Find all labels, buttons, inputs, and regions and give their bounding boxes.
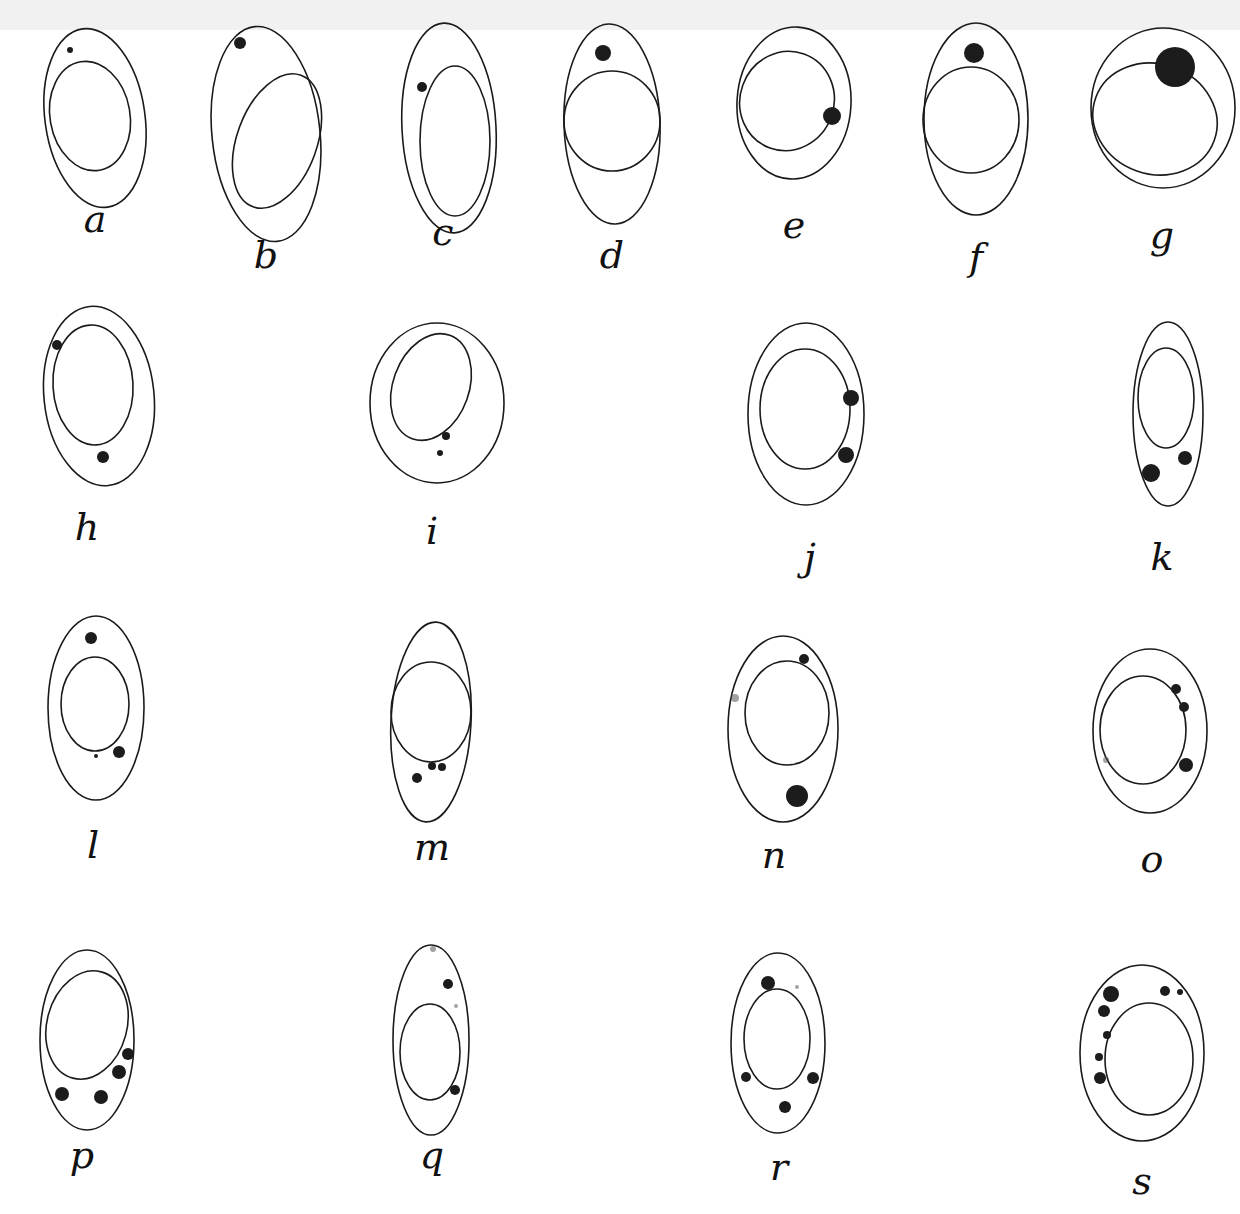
figure-o: o: [1093, 649, 1207, 881]
figure-label: o: [1141, 837, 1164, 881]
cell-membrane: [201, 21, 331, 247]
figure-label: s: [1132, 1159, 1152, 1203]
figure-label: a: [84, 197, 107, 241]
granule: [454, 1004, 458, 1008]
figure-m: m: [386, 620, 476, 869]
granule: [55, 1087, 69, 1101]
nucleus: [41, 55, 139, 177]
nucleus: [564, 71, 660, 171]
granule: [799, 654, 809, 664]
granule: [595, 45, 611, 61]
nucleus: [745, 661, 829, 765]
scan-top-band: [0, 0, 1240, 30]
granule: [761, 976, 775, 990]
cell-membrane: [733, 24, 855, 182]
figure-label: p: [70, 1133, 94, 1177]
figure-h: h: [35, 301, 163, 549]
nucleus: [744, 989, 810, 1089]
nucleus: [391, 662, 471, 762]
nucleus: [420, 66, 490, 216]
figure-label: j: [797, 535, 816, 579]
figure-d: d: [561, 22, 664, 277]
granule: [234, 37, 246, 49]
figure-label: i: [426, 509, 438, 553]
figures-group: abcdefghijklmnopqrs: [33, 21, 1235, 1203]
nucleus: [61, 657, 129, 751]
cell-membrane: [561, 22, 664, 225]
cell-membrane: [731, 953, 825, 1133]
figure-p: p: [34, 950, 140, 1177]
cell-membrane: [386, 620, 476, 824]
granule: [1142, 464, 1160, 482]
nucleus: [1105, 1003, 1193, 1115]
cell-membrane: [397, 21, 502, 236]
granule: [807, 1072, 819, 1084]
figure-label: b: [254, 233, 278, 277]
granule: [779, 1101, 791, 1113]
granule: [1098, 1005, 1110, 1017]
nucleus: [1138, 348, 1194, 448]
granule: [1177, 989, 1183, 995]
granule: [1103, 757, 1109, 763]
nucleus: [50, 323, 136, 447]
granule: [52, 340, 62, 350]
granule: [795, 985, 799, 989]
figure-label: k: [1150, 535, 1173, 579]
granule: [94, 1090, 108, 1104]
granule: [838, 447, 854, 463]
cell-membrane: [393, 945, 469, 1135]
figure-r: r: [731, 953, 825, 1189]
cell-plate: abcdefghijklmnopqrs: [0, 0, 1240, 1214]
figure-f: f: [923, 23, 1028, 279]
granule: [1160, 986, 1170, 996]
figure-b: b: [201, 21, 339, 277]
granule: [67, 47, 73, 53]
figure-label: d: [600, 233, 624, 277]
granule: [97, 451, 109, 463]
nucleus: [400, 1004, 460, 1100]
figure-g: g: [1077, 28, 1235, 257]
granule: [443, 979, 453, 989]
granule: [430, 946, 436, 952]
granule: [122, 1048, 134, 1060]
figure-s: s: [1080, 965, 1204, 1203]
granule: [85, 632, 97, 644]
figure-label: r: [770, 1145, 791, 1189]
cell-membrane: [1093, 649, 1207, 813]
granule: [412, 773, 422, 783]
granule: [741, 1072, 751, 1082]
granule: [437, 450, 443, 456]
granule: [1094, 1072, 1106, 1084]
cell-membrane: [728, 636, 838, 822]
granule: [1178, 451, 1192, 465]
granule: [94, 754, 98, 758]
granule: [417, 82, 427, 92]
figure-label: m: [414, 825, 450, 869]
figure-n: n: [728, 636, 838, 877]
granule: [113, 746, 125, 758]
granule: [438, 763, 446, 771]
granule: [442, 432, 450, 440]
granule: [823, 107, 841, 125]
figure-l: l: [48, 616, 144, 867]
figure-label: h: [75, 505, 99, 549]
figure-j: j: [748, 323, 864, 579]
granule: [843, 390, 859, 406]
figure-label: f: [966, 235, 989, 279]
granule: [450, 1085, 460, 1095]
granule: [1103, 986, 1119, 1002]
nucleus: [726, 38, 849, 164]
figure-q: q: [393, 945, 469, 1177]
granule: [1103, 1031, 1111, 1039]
figure-i: i: [370, 322, 504, 553]
granule: [1179, 702, 1189, 712]
figure-label: e: [783, 203, 806, 247]
cell-membrane: [40, 950, 134, 1130]
granule: [1155, 47, 1195, 87]
cell-membrane: [33, 22, 157, 214]
figure-e: e: [726, 24, 855, 247]
granule: [964, 43, 984, 63]
granule: [428, 762, 436, 770]
figure-a: a: [33, 22, 157, 241]
granule: [1095, 1053, 1103, 1061]
